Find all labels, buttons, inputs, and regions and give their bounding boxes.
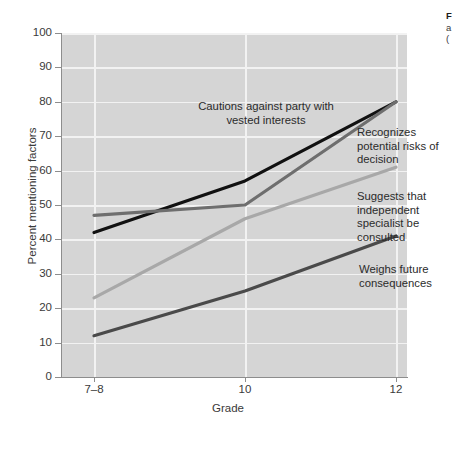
y-axis-title: Percent mentioning factors (26, 86, 38, 306)
x-axis-tick-label: 7–8 (64, 383, 124, 395)
y-axis-line (61, 33, 62, 378)
y-axis-tick (55, 377, 61, 378)
y-axis-tick (55, 308, 61, 309)
gridline-horizontal (62, 239, 407, 241)
annotation-recognizes: Recognizes potential risks of decision (357, 126, 456, 167)
gridline-horizontal (62, 308, 407, 310)
annotation-cautions: Cautions against party with vested inter… (193, 100, 339, 127)
y-axis-tick (55, 136, 61, 137)
y-axis-tick (55, 343, 61, 344)
annotation-suggests: Suggests that independent specialist be … (357, 190, 456, 244)
x-axis-tick-label: 12 (366, 383, 426, 395)
y-axis-tick-label: 0 (12, 371, 52, 382)
y-axis-tick-label: 100 (12, 27, 52, 38)
x-axis-tick-label: 10 (215, 383, 275, 395)
gridline-horizontal (62, 274, 407, 276)
figure-caption-clipped: F a ( (446, 10, 456, 45)
annotation-weighs: Weighs future consequences (359, 263, 456, 290)
gridline-horizontal (62, 67, 407, 69)
y-axis-tick (55, 102, 61, 103)
x-axis-tick (396, 377, 397, 382)
y-axis-tick (55, 33, 61, 34)
y-axis-tick (55, 67, 61, 68)
chart-figure: 0102030405060708090100 7–81012 Grade Per… (0, 0, 456, 449)
figure-caption-line2: a (446, 22, 456, 34)
figure-caption-line3: ( (446, 33, 456, 45)
gridline-horizontal (62, 343, 407, 345)
gridline-horizontal (62, 136, 407, 138)
y-axis-tick-label: 90 (12, 61, 52, 72)
x-axis-tick (94, 377, 95, 382)
y-axis-tick (55, 205, 61, 206)
x-axis-line (62, 377, 408, 378)
gridline-vertical (94, 33, 96, 377)
figure-caption-line1: F (446, 10, 456, 22)
gridline-horizontal (62, 205, 407, 207)
y-axis-tick (55, 171, 61, 172)
y-axis-tick-label: 10 (12, 337, 52, 348)
gridline-horizontal (62, 171, 407, 173)
y-axis-tick (55, 239, 61, 240)
gridline-horizontal (62, 33, 407, 35)
x-axis-title: Grade (0, 402, 456, 414)
gridline-vertical (245, 33, 247, 377)
y-axis-tick (55, 274, 61, 275)
x-axis-tick (245, 377, 246, 382)
